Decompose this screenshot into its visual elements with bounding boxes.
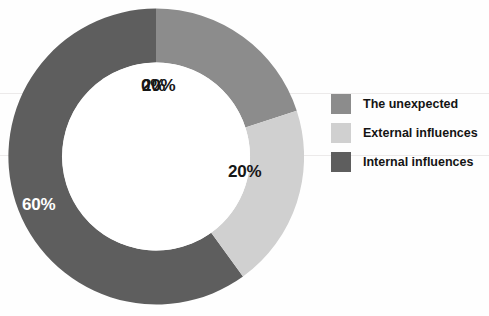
legend-swatch-the-unexpected [331,94,351,114]
donut-chart: 20% 20% 60% 0% The unexpected External i… [0,0,489,316]
donut-svg [8,8,304,305]
chart-legend: The unexpected External influences Inter… [331,94,486,172]
legend-label-the-unexpected: The unexpected [363,98,458,111]
legend-item-the-unexpected[interactable]: The unexpected [331,94,486,114]
donut-graphic [8,8,304,305]
legend-item-external-influences[interactable]: External influences [331,123,486,143]
legend-swatch-external-influences [331,123,351,143]
legend-item-internal-influences[interactable]: Internal influences [331,152,486,172]
slice-value-label-external-influences: 20% [228,163,261,180]
legend-label-external-influences: External influences [363,127,478,140]
slice-value-label-internal-influences: 60% [22,196,55,213]
legend-label-internal-influences: Internal influences [363,156,473,169]
legend-swatch-internal-influences [331,152,351,172]
slice-value-label-zero: 0% [141,77,165,94]
